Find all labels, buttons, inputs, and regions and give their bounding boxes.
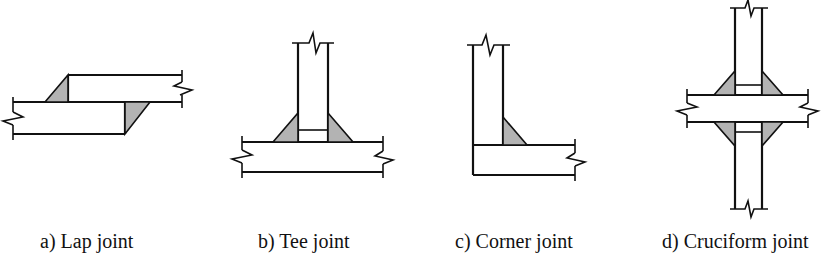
cruciform-joint-diagram <box>677 0 818 217</box>
cruciform-weld-bottom-left <box>714 122 735 146</box>
tee-horizontal-plate <box>232 136 393 178</box>
cruciform-weld-top-left <box>714 71 735 95</box>
tee-joint-diagram <box>232 33 393 178</box>
lap-weld-right <box>125 102 150 134</box>
caption-tee-joint: b) Tee joint <box>258 230 350 253</box>
tee-weld-left <box>273 113 298 142</box>
caption-corner-joint: c) Corner joint <box>455 230 573 253</box>
caption-cruciform-joint: d) Cruciform joint <box>662 230 809 253</box>
tee-weld-right <box>328 113 353 142</box>
cruciform-horizontal-plate <box>677 89 818 128</box>
corner-joint-diagram <box>467 35 585 181</box>
lap-weld-left <box>45 75 68 102</box>
caption-lap-joint: a) Lap joint <box>40 230 133 253</box>
lap-lower-plate <box>3 97 125 140</box>
corner-vertical-plate <box>467 35 510 175</box>
weld-joint-figure <box>0 0 835 263</box>
cruciform-weld-bottom-right <box>762 122 783 146</box>
corner-horizontal-plate <box>473 139 585 181</box>
lap-joint-diagram <box>3 70 192 140</box>
cruciform-weld-top-right <box>762 71 783 95</box>
corner-weld <box>503 117 527 145</box>
